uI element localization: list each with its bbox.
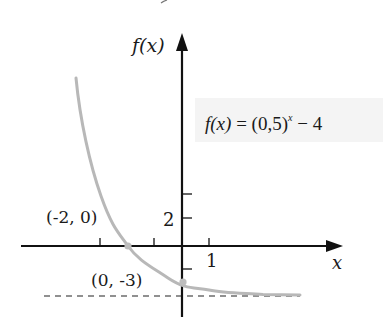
scan-mark — [161, 0, 167, 3]
y-tick-label-2: 2 — [163, 211, 174, 229]
y-axis-arrow-icon — [176, 33, 188, 51]
x-ticks — [100, 238, 209, 246]
x-axis-arrow-icon — [326, 240, 343, 252]
x-tick-label-1: 1 — [206, 252, 217, 270]
function-formula: f(x) = (0,5)x − 4 — [205, 113, 322, 133]
x-intercept-point — [124, 242, 131, 249]
formula-rest: − 4 — [292, 113, 322, 134]
y-ticks — [182, 194, 192, 269]
formula-lhs: f(x) — [205, 113, 231, 134]
x-axis-label: x — [332, 254, 342, 272]
plot-canvas — [0, 0, 385, 333]
y-intercept-label: (0, -3) — [91, 272, 142, 289]
graph-figure: f(x) = (0,5)x − 4 f(x) x 2 1 (-2, 0) (0,… — [0, 0, 385, 333]
formula-mid: = (0,5) — [231, 113, 288, 134]
x-intercept-label: (-2, 0) — [46, 209, 97, 226]
y-intercept-point — [179, 278, 186, 285]
y-axis-label: f(x) — [132, 36, 165, 55]
